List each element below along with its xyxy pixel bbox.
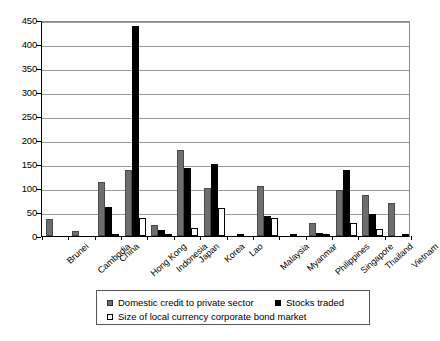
bar [264,216,271,236]
legend-item-stocks-traded: Stocks traded [275,298,344,308]
x-axis-tick-mark [147,236,148,240]
bar-group [336,22,357,236]
y-axis-tick-label: 0 [3,232,37,242]
bar-group [362,22,383,236]
bar [125,170,132,236]
x-axis-tick-mark [253,236,254,240]
y-axis-tick-label: 250 [3,112,37,122]
y-axis-tick-label: 200 [3,136,37,146]
bar-group [177,22,198,236]
legend-label-bond-market: Size of local currency corporate bond ma… [118,312,307,322]
bar [204,188,211,236]
bar-group [72,22,93,236]
y-axis-tick-label: 450 [3,16,37,26]
bar [158,230,165,236]
bar [98,182,105,236]
y-axis-tick-label: 400 [3,40,37,50]
bar [105,207,112,236]
bar [211,164,218,236]
bar [165,234,172,236]
bar-group [257,22,278,236]
legend-item-domestic-credit: Domestic credit to private sector [107,298,254,308]
bar-group [151,22,172,236]
bar [376,229,383,236]
bar [237,234,244,236]
bar-group [46,22,67,236]
x-axis-tick-mark [68,236,69,240]
legend-label-domestic-credit: Domestic credit to private sector [118,298,254,308]
x-axis-tick-mark [42,236,43,240]
x-axis-tick-mark [385,236,386,240]
bar [72,231,79,236]
legend-swatch-stocks-traded-icon [275,300,281,306]
x-axis-tick-mark [306,236,307,240]
y-axis-tick-label: 350 [3,64,37,74]
bar [191,228,198,236]
bar [132,26,139,236]
bar [309,223,316,236]
bar [323,234,330,236]
x-axis-tick-mark [332,236,333,240]
chart-legend: Domestic credit to private sector Stocks… [96,290,370,325]
bar-group [125,22,146,236]
bar [336,190,343,236]
bar [46,219,53,236]
bar [402,234,409,236]
x-axis-tick-mark [411,236,412,240]
x-axis-tick-label: Korea [223,242,247,264]
bar [257,186,264,236]
bar [388,203,395,236]
bar [343,170,350,236]
bar [139,218,146,236]
bar [316,233,323,236]
x-axis-tick-mark [358,236,359,240]
bar-group [230,22,251,236]
legend-swatch-domestic-credit-icon [107,300,113,306]
x-axis-tick-mark [279,236,280,240]
y-axis-tick-label: 150 [3,160,37,170]
x-axis-tick-label: Brunei [66,242,91,266]
bar [362,195,369,236]
bar-group [309,22,330,236]
legend-label-stocks-traded: Stocks traded [286,298,344,308]
bar [151,225,158,236]
bar [271,218,278,236]
bar-group [98,22,119,236]
x-axis-tick-mark [95,236,96,240]
y-axis-tick-label: 300 [3,88,37,98]
bar [184,168,191,236]
legend-item-bond-market: Size of local currency corporate bond ma… [107,312,307,322]
x-axis-tick-mark [227,236,228,240]
bar [218,208,225,236]
y-axis-tick-mark [36,237,41,238]
bar [350,223,357,236]
x-axis-tick-label: Lao [247,242,264,259]
bar [112,234,119,236]
bar [290,234,297,236]
bar [177,150,184,236]
x-axis-tick-mark [121,236,122,240]
bar-group [388,22,409,236]
x-axis-tick-mark [174,236,175,240]
x-axis-tick-mark [200,236,201,240]
y-axis-tick-label: 100 [3,184,37,194]
legend-swatch-bond-market-icon [107,314,113,320]
y-axis-tick-label: 50 [3,208,37,218]
plot-area [41,21,410,237]
bar [369,214,376,236]
bar-group [204,22,225,236]
x-axis-tick-label: Vietnam [410,242,440,270]
bar-group [283,22,304,236]
